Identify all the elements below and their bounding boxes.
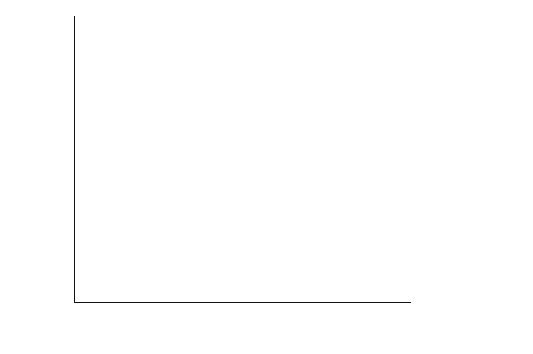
y-axis-line	[74, 16, 75, 302]
legend	[412, 16, 530, 296]
plot-area	[74, 16, 410, 302]
chart-root	[0, 0, 533, 354]
artifact-text	[2, 1, 112, 8]
x-axis-line	[74, 302, 411, 303]
